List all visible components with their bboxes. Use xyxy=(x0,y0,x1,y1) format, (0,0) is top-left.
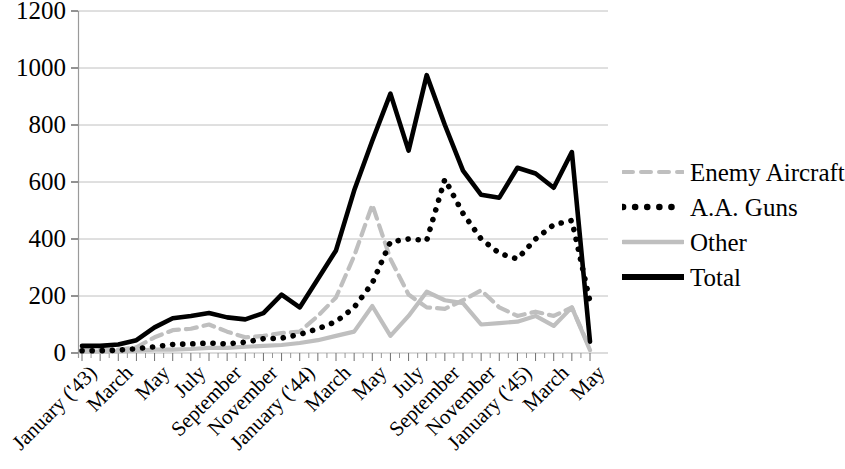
y-tick-label: 800 xyxy=(4,112,66,137)
y-axis: 120010008006004002000 xyxy=(0,0,66,369)
legend-swatch-icon xyxy=(622,163,684,181)
legend-item-a-a-guns: A.A. Guns xyxy=(622,190,798,224)
x-axis: January ('43)MarchMayJulySeptemberNovemb… xyxy=(0,356,640,469)
y-tick-label: 600 xyxy=(4,169,66,194)
legend-label: A.A. Guns xyxy=(690,195,798,220)
legend-item-total: Total xyxy=(622,260,741,294)
x-tick-label-text: January ('43) xyxy=(9,362,101,454)
legend-item-enemy-aircraft: Enemy Aircraft xyxy=(622,155,845,189)
y-tick-label: 400 xyxy=(4,226,66,251)
y-tick-label: 1200 xyxy=(4,0,66,23)
legend-label: Other xyxy=(690,230,747,255)
legend-label: Enemy Aircraft xyxy=(690,160,845,185)
legend-swatch-icon xyxy=(622,268,684,286)
legend-swatch-icon xyxy=(622,198,684,216)
y-tick-label: 200 xyxy=(4,283,66,308)
y-tick-label: 1000 xyxy=(4,55,66,80)
legend-label: Total xyxy=(690,265,741,290)
legend-item-other: Other xyxy=(622,225,747,259)
chart-legend: Enemy AircraftA.A. GunsOtherTotal xyxy=(622,155,831,305)
legend-swatch-icon xyxy=(622,233,684,251)
